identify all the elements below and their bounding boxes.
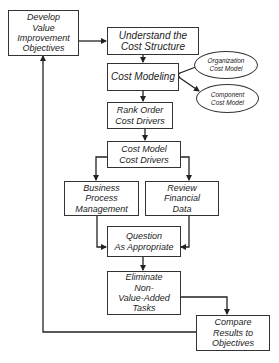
node-label-line: Objectives [212, 338, 254, 348]
node-rank-order-cost-drivers: Rank Order Cost Drivers [107, 102, 173, 129]
node-label-line: Value-Added [118, 293, 170, 303]
node-label-line: Business [83, 183, 120, 193]
arrow-modeling-to-component [180, 78, 199, 91]
node-label-line: Rank Order [117, 105, 164, 115]
node-label-line: Value [32, 23, 55, 33]
node-understand-cost-structure: Understand the Cost Structure [107, 27, 199, 55]
node-label-line: Understand the [119, 30, 187, 42]
node-question-as-appropriate: Question As Appropriate [107, 226, 181, 257]
node-label-line: Cost Model [210, 65, 243, 73]
node-eliminate-non-value-added-tasks: Eliminate Non- Value-Added Tasks [107, 271, 181, 315]
node-develop-objectives: Develop Value Improvement Objectives [8, 10, 79, 56]
node-label-line: Objectives [22, 43, 64, 53]
node-label-line: Cost Drivers [115, 116, 165, 126]
node-label-line: Cost Modeling [111, 71, 175, 83]
arrow-review-to-question [181, 215, 189, 247]
node-label-line: Cost Model [211, 99, 244, 107]
node-cost-modeling: Cost Modeling [107, 63, 179, 91]
arrow-drivers-to-review [180, 157, 189, 180]
node-label-line: Cost Model [121, 144, 167, 154]
node-cost-model-cost-drivers: Cost Model Cost Drivers [107, 141, 181, 168]
node-label-line: Improvement [17, 33, 70, 43]
node-business-process-management: Business Process Management [64, 181, 139, 216]
node-review-financial-data: Review Financial Data [145, 181, 219, 216]
node-label-line: Financial [164, 193, 200, 203]
node-organization-cost-model: Organization Cost Model [194, 51, 258, 79]
node-label-line: Management [75, 204, 128, 214]
node-label-line: Process [85, 193, 118, 203]
node-compare-results-to-objectives: Compare Results to Objectives [196, 315, 270, 351]
node-label-line: Eliminate [125, 272, 162, 282]
node-label-line: Compare [214, 317, 251, 327]
node-label-line: As Appropriate [114, 242, 173, 252]
node-label-line: Organization [208, 57, 245, 65]
arrow-drivers-to-business [96, 157, 107, 180]
node-label-line: Cost Drivers [119, 155, 169, 165]
node-label-line: Cost Structure [121, 41, 185, 53]
node-label-line: Question [126, 231, 162, 241]
node-label-line: Results to [213, 328, 253, 338]
node-component-cost-model: Component Cost Model [196, 84, 259, 113]
node-label-line: Review [167, 183, 197, 193]
arrow-eliminate-to-compare [180, 297, 227, 314]
node-label-line: Tasks [132, 303, 155, 313]
arrow-business-to-question [97, 215, 106, 247]
node-label-line: Component [211, 91, 245, 99]
node-label-line: Non- [134, 283, 154, 293]
node-label-line: Develop [27, 12, 60, 22]
node-label-line: Data [172, 204, 191, 214]
